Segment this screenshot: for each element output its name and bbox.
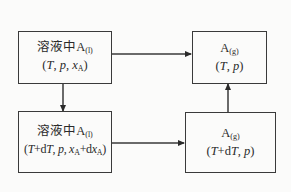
paren: ) [102, 142, 106, 156]
phase-subscript: (g) [229, 47, 238, 56]
node-gas-initial: A(g) (T, p) [192, 31, 267, 84]
var-T: T [211, 144, 218, 158]
solution-prefix-text: 溶液中 [37, 40, 76, 54]
paren: ) [239, 59, 243, 73]
solution-prefix-text: 溶液中 [37, 124, 76, 138]
species-text: A [76, 124, 85, 138]
species-text: A [220, 41, 229, 55]
phase-subscript: (l) [85, 46, 93, 55]
node-gas-initial-state: (T, p) [216, 59, 244, 74]
plus: + [218, 144, 225, 158]
phase-subscript: (l) [85, 130, 93, 139]
node-solution-perturbed-state: (T+dT, p, xA+dxA) [24, 142, 106, 160]
node-solution-initial: 溶液中A(l) (T, p, xA) [18, 31, 112, 84]
node-solution-initial-label: 溶液中A(l) [37, 40, 93, 58]
node-solution-perturbed: 溶液中A(l) (T+dT, p, xA+dxA) [18, 111, 112, 173]
node-gas-initial-label: A(g) [220, 41, 238, 59]
paren: ) [84, 58, 88, 72]
species-text: A [76, 40, 85, 54]
var-T: T [231, 144, 238, 158]
phase-subscript: (g) [230, 132, 239, 141]
var-T: T [220, 59, 227, 73]
node-solution-perturbed-label: 溶液中A(l) [37, 124, 93, 142]
node-solution-initial-state: (T, p, xA) [42, 58, 87, 76]
node-gas-perturbed-label: A(g) [221, 126, 239, 144]
node-gas-perturbed: A(g) (T+dT, p) [185, 112, 276, 173]
paren: ) [250, 144, 254, 158]
node-gas-perturbed-state: (T+dT, p) [206, 144, 254, 159]
species-text: A [221, 126, 230, 140]
